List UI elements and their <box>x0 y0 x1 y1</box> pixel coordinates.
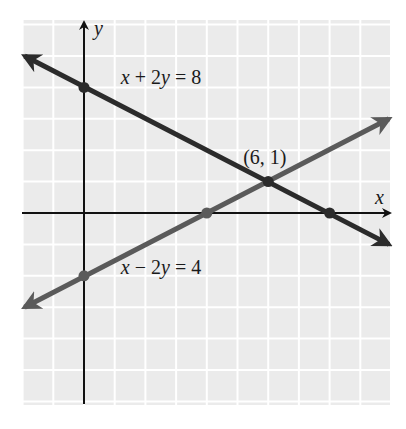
annotations: (6, 1) <box>243 146 286 169</box>
data-point <box>201 208 212 219</box>
intersection-label: (6, 1) <box>243 146 286 169</box>
series-label: x + 2y = 8 <box>120 66 201 89</box>
data-point <box>263 176 274 187</box>
chart: x y x + 2y = 8x − 2y = 4 (6, 1) <box>0 0 406 429</box>
data-point <box>324 208 335 219</box>
series-label: x − 2y = 4 <box>120 256 201 279</box>
y-axis-label: y <box>92 17 103 40</box>
data-point <box>79 82 90 93</box>
x-axis-label: x <box>374 186 384 208</box>
data-point <box>79 270 90 281</box>
